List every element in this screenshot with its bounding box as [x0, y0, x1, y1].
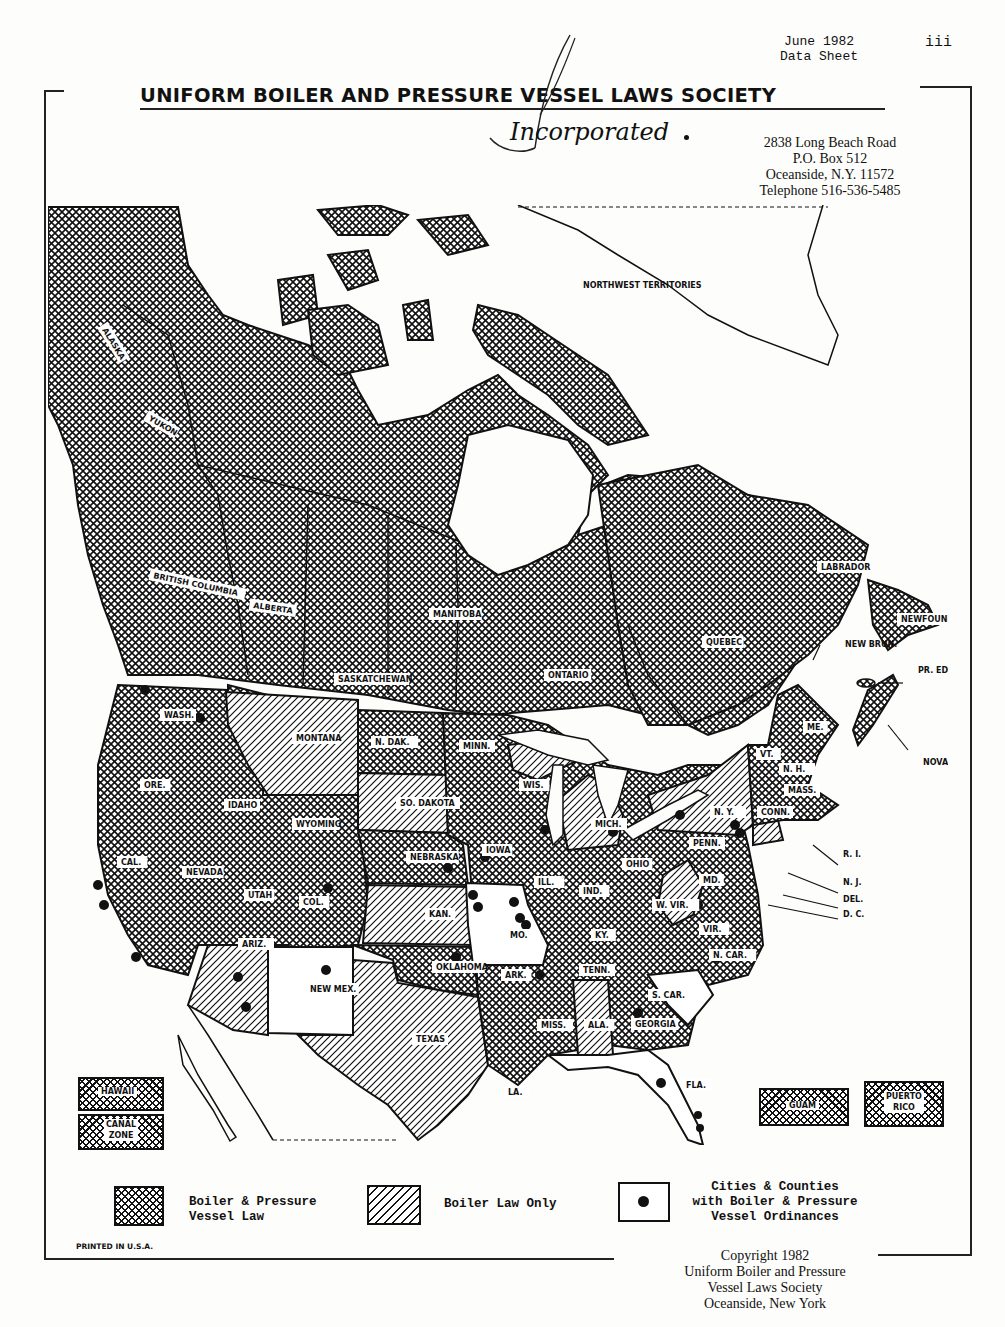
printed-in-usa: PRINTED IN U.S.A.: [76, 1242, 153, 1251]
ordinance-dot: [656, 1078, 666, 1088]
map-label-ncar: N. CAR.: [709, 949, 756, 961]
map-label-ariz: ARIZ.: [238, 938, 274, 950]
map-label-text: MANITOBA: [433, 610, 482, 619]
map-label-md: MD.: [699, 874, 724, 886]
ordinance-dot: [99, 900, 109, 910]
map-label-text: TEXAS: [416, 1035, 445, 1044]
frame-bottom-right: [878, 1254, 972, 1256]
map-label-text: N. H.: [783, 765, 805, 774]
map-label-text: ME.: [807, 723, 823, 732]
map-label-text: N. CAR.: [713, 951, 747, 960]
header-doc-type: Data Sheet: [780, 49, 858, 64]
map-label-text: MISS.: [541, 1021, 566, 1030]
map-label-ill: ILL.: [534, 876, 564, 888]
map-label-text: KY.: [595, 931, 609, 940]
map-label-penn: PENN.: [689, 837, 725, 849]
arctic-island: [318, 205, 408, 235]
map-label-text: MONTANA: [296, 734, 342, 743]
inset-label-line: PUERTO: [886, 1092, 922, 1101]
map-label-text: NEVADA: [186, 868, 224, 877]
header-date: June 1982: [780, 34, 858, 49]
map-label-text: IND.: [583, 887, 602, 896]
inset-puerto-rico-label: PUERTO RICO: [884, 1091, 924, 1113]
legend-swatch-boiler-only: [367, 1185, 421, 1225]
region-pei: [857, 679, 875, 687]
map-label-ala: ALA.: [584, 1019, 614, 1031]
map-label-text: MICH.: [595, 820, 622, 829]
inset-canal-zone: CANAL ZONE: [78, 1114, 164, 1150]
ordinance-dot: [468, 890, 478, 900]
map-label-text: ALA.: [588, 1021, 609, 1030]
region-arizona: [188, 945, 268, 1035]
inset-label-line: RICO: [893, 1103, 915, 1112]
map-label-text: NOVA SCOTIA: [923, 758, 948, 767]
map-label-text: ORE.: [144, 781, 165, 790]
map-label-pei: PR. ED. IS.: [918, 666, 948, 675]
map-label-texas: TEXAS: [412, 1033, 448, 1045]
address-line: Telephone 516-536-5485: [730, 183, 930, 199]
map-label-text: N. Y.: [714, 808, 734, 817]
map-label-text: N. DAK.: [375, 738, 410, 747]
ordinance-dot: [735, 828, 745, 838]
north-america-map: ALASKAYUKONNORTHWEST TERRITORIESBRITISH …: [48, 205, 948, 1145]
arctic-island: [328, 250, 378, 290]
map-label-text: VIR.: [703, 925, 722, 934]
map-label-text: NEW MEX.: [310, 985, 356, 994]
map-label-nh: N. H.: [779, 763, 815, 775]
arctic-island: [418, 215, 488, 255]
map-label-nebraska: NEBRASKA: [406, 851, 460, 863]
map-label-col: COL.: [299, 896, 329, 908]
ordinance-dot: [540, 825, 550, 835]
ordinance-dot: [195, 713, 205, 723]
incorporated-script: Incorporated: [510, 118, 669, 146]
map-label-mo: MO.: [506, 929, 531, 941]
arctic-island: [403, 300, 433, 340]
baja-outline: [178, 1035, 236, 1141]
ordinance-dot: [451, 952, 461, 962]
map-label-quebec: QUEBEC: [702, 636, 744, 648]
region-kansas: [363, 885, 473, 945]
map-label-text: GEORGIA: [635, 1020, 677, 1029]
ordinance-dot: [323, 883, 333, 893]
ordinance-dot: [696, 1124, 704, 1132]
map-label-text: ILL.: [538, 878, 554, 887]
ordinance-dot: [241, 1002, 251, 1012]
map-label-tenn: TENN.: [579, 964, 615, 976]
legend-label-ordinance: Cities & Counties with Boiler & Pressure…: [675, 1180, 875, 1225]
map-label-me: ME.: [803, 721, 828, 733]
map-label-text: MD.: [703, 876, 721, 885]
inset-hawaii: HAWAII: [78, 1077, 164, 1111]
map-label-text: COL.: [303, 898, 324, 907]
map-label-text: SASKATCHEWAN: [338, 675, 412, 684]
map-label-ri: R. I.: [843, 850, 861, 859]
ordinance-dot: [535, 970, 545, 980]
map-label-kan: KAN.: [425, 908, 455, 920]
map-label-text: ARK.: [505, 971, 527, 980]
region-florida: [548, 1050, 703, 1145]
legend-line: Cities & Counties: [675, 1180, 875, 1195]
address-line: P.O. Box 512: [730, 151, 930, 167]
map-label-wyoming: WYOMING: [292, 818, 341, 830]
map-label-del: DEL.: [843, 895, 863, 904]
frame-top-left: [44, 90, 64, 92]
legend-line: Boiler & Pressure: [189, 1195, 317, 1210]
map-label-text: CAL.: [121, 858, 141, 867]
map-label-manitoba: MANITOBA: [429, 608, 482, 620]
map-label-text: ARIZ.: [242, 940, 266, 949]
map-label-ndak: N. DAK.: [371, 736, 418, 748]
copyright-line: Copyright 1982: [640, 1248, 890, 1264]
map-label-text: IDAHO: [228, 801, 258, 810]
inset-label-line: CANAL: [106, 1120, 136, 1129]
map-label-wis: WIS.: [519, 779, 549, 791]
map-label-text: PENN.: [693, 839, 721, 848]
map-label-idaho: IDAHO: [224, 799, 260, 811]
ordinance-dot-icon: [638, 1196, 649, 1207]
bullet-dot: [684, 135, 689, 140]
map-label-fla: FLA.: [682, 1079, 712, 1091]
map-label-ore: ORE.: [140, 779, 170, 791]
map-label-iowa: IOWA: [482, 844, 512, 856]
map-label-text: QUEBEC: [706, 638, 742, 647]
map-label-newfoundland: NEWFOUNDLAND: [897, 613, 948, 625]
map-label-text: S. CAR.: [652, 991, 685, 1000]
map-label-text: LABRADOR: [821, 563, 870, 572]
